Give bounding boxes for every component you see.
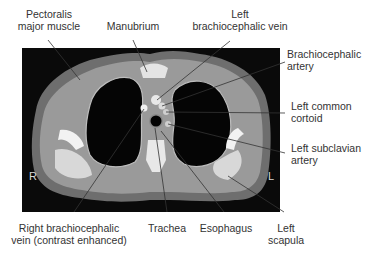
label-left-common-carotid: Left common cortoid	[291, 100, 352, 124]
label-line: Trachea	[144, 222, 190, 234]
label-line: Right brachiocephalic	[10, 222, 128, 234]
label-left-scapula: Left scapula	[266, 222, 306, 246]
label-pectoralis-major-muscle: Pectoralis major muscle	[14, 8, 84, 32]
label-left-subclavian-artery: Left subclavian artery	[291, 142, 361, 166]
label-line: artery	[287, 60, 361, 72]
label-right-brachiocephalic-vein: Right brachiocephalic vein (contrast enh…	[10, 222, 128, 246]
label-line: scapula	[266, 234, 306, 246]
label-manubrium: Manubrium	[100, 20, 166, 32]
label-line: major muscle	[14, 20, 84, 32]
left-orientation-marker: L	[268, 170, 274, 182]
label-line: Left subclavian	[291, 142, 361, 154]
label-line: artery	[291, 154, 361, 166]
ct-scan-image	[0, 0, 375, 257]
label-line: Left	[266, 222, 306, 234]
label-line: vein (contrast enhanced)	[10, 234, 128, 246]
label-line: Pectoralis	[14, 8, 84, 20]
label-line: Manubrium	[100, 20, 166, 32]
label-line: Brachiocephalic	[287, 48, 361, 60]
label-esophagus: Esophagus	[196, 222, 256, 234]
label-left-brachiocephalic-vein: Left brachiocephalic vein	[190, 8, 290, 32]
right-orientation-marker: R	[29, 170, 37, 182]
label-line: brachiocephalic vein	[190, 20, 290, 32]
label-brachiocephalic-artery: Brachiocephalic artery	[287, 48, 361, 72]
label-line: Esophagus	[196, 222, 256, 234]
label-line: Left common	[291, 100, 352, 112]
label-line: cortoid	[291, 112, 352, 124]
label-trachea: Trachea	[144, 222, 190, 234]
label-line: Left	[190, 8, 290, 20]
anatomy-figure: R L Pectoralis major muscle Manubrium Le…	[0, 0, 375, 257]
